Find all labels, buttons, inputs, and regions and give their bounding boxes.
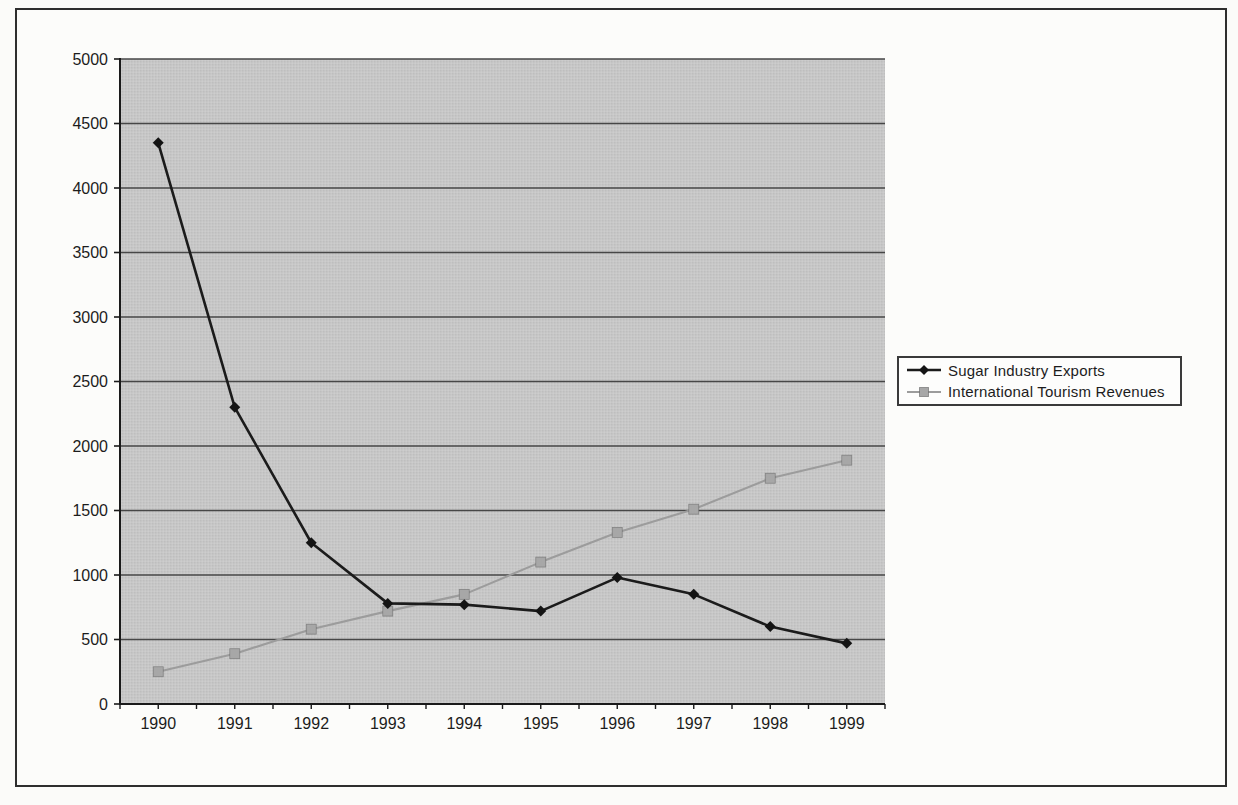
svg-text:1997: 1997 [676,715,712,732]
svg-text:1990: 1990 [140,715,176,732]
svg-text:0: 0 [99,696,108,713]
svg-text:2500: 2500 [72,373,108,390]
legend-item-tourism-revenues: International Tourism Revenues [906,382,1176,403]
chart-legend: Sugar Industry Exports International Tou… [897,356,1182,406]
scanned-figure-page: 0500100015002000250030003500400045005000… [0,0,1238,805]
svg-text:4500: 4500 [72,115,108,132]
sugar-series-diamond-marker-icon [906,363,942,377]
tourism-series-square-marker-icon [906,385,942,399]
svg-text:1994: 1994 [446,715,482,732]
svg-text:1500: 1500 [72,502,108,519]
svg-text:3000: 3000 [72,309,108,326]
legend-label-sugar-exports: Sugar Industry Exports [948,362,1105,379]
y-axis-labels: 0500100015002000250030003500400045005000 [72,51,108,713]
svg-text:500: 500 [81,631,108,648]
svg-text:1998: 1998 [752,715,788,732]
legend-label-tourism-revenues: International Tourism Revenues [948,383,1165,400]
legend-item-sugar-exports: Sugar Industry Exports [906,360,1176,381]
svg-text:1996: 1996 [599,715,635,732]
svg-text:5000: 5000 [72,51,108,68]
svg-text:3500: 3500 [72,244,108,261]
svg-text:1992: 1992 [293,715,329,732]
svg-text:2000: 2000 [72,438,108,455]
svg-text:1000: 1000 [72,567,108,584]
svg-text:1995: 1995 [523,715,559,732]
svg-text:4000: 4000 [72,180,108,197]
svg-text:1993: 1993 [370,715,406,732]
svg-text:1991: 1991 [217,715,253,732]
figure-frame: 0500100015002000250030003500400045005000… [15,8,1227,787]
x-axis-labels: 1990199119921993199419951996199719981999 [140,715,864,732]
svg-text:1999: 1999 [829,715,865,732]
